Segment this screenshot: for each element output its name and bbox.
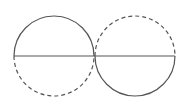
right-circle-top-dashed-arc <box>95 16 175 56</box>
right-circle-bottom-solid-arc <box>95 56 175 96</box>
left-circle-bottom-dashed-arc <box>14 56 94 96</box>
left-circle-top-solid-arc <box>14 16 94 56</box>
two-circles-diagram <box>0 0 188 106</box>
